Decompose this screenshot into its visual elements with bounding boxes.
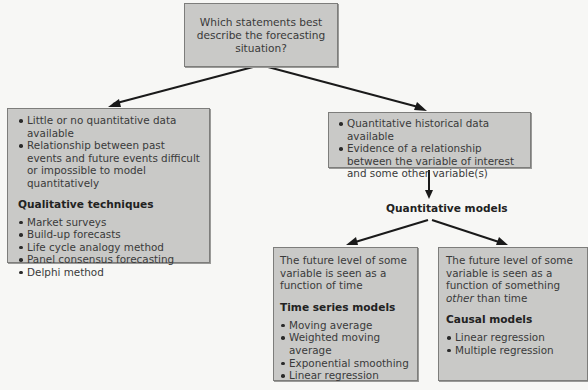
qualitative-technique: Market surveys (18, 216, 203, 229)
causal-model: Linear regression (446, 331, 583, 344)
causal-box: The future level of some variable is see… (438, 247, 588, 381)
qualitative-heading: Qualitative techniques (18, 198, 203, 210)
time-series-model: Linear regression (280, 369, 411, 382)
arrow-to-qualitative (113, 67, 253, 104)
time-series-heading: Time series models (280, 301, 411, 313)
time-series-model: Moving average (280, 319, 411, 332)
causal-models-list: Linear regression Multiple regression (446, 331, 583, 356)
qualitative-conditions-list: Little or no quantitative data available… (18, 114, 203, 190)
arrowhead-quantitative-models (425, 190, 433, 199)
qualitative-techniques-list: Market surveys Build-up forecasts Life c… (18, 216, 203, 279)
quantitative-condition: Quantitative historical data available (338, 117, 524, 142)
causal-description: The future level of some variable is see… (446, 254, 583, 304)
qualitative-technique: Delphi method (18, 266, 203, 279)
arrowhead-quantitative (414, 102, 427, 111)
quantitative-conditions-list: Quantitative historical data available E… (338, 117, 524, 180)
causal-description-start: The future level of some variable is see… (446, 254, 573, 291)
arrowhead-causal (496, 237, 508, 245)
qualitative-technique: Build-up forecasts (18, 228, 203, 241)
time-series-model: Weighted moving average (280, 331, 411, 356)
time-series-box: The future level of some variable is see… (273, 247, 418, 381)
time-series-description: The future level of some variable is see… (280, 254, 411, 292)
qualitative-box: Little or no quantitative data available… (7, 108, 210, 263)
causal-description-end: than time (474, 292, 528, 304)
quantitative-condition: Evidence of a relationship between the v… (338, 142, 524, 180)
arrow-to-causal (432, 220, 502, 243)
root-question-text: Which statements best describe the forec… (185, 16, 337, 55)
quantitative-models-label: Quantitative models (386, 202, 508, 214)
root-question-line-1: Which statements best (185, 16, 337, 29)
quantitative-conditions-box: Quantitative historical data available E… (328, 112, 531, 168)
qualitative-condition: Relationship between past events and fut… (18, 139, 203, 189)
time-series-model: Exponential smoothing (280, 357, 411, 370)
causal-description-emphasis: other (446, 292, 474, 304)
causal-model: Multiple regression (446, 344, 583, 357)
qualitative-condition: Little or no quantitative data available (18, 114, 203, 139)
arrowhead-qualitative (108, 99, 121, 107)
qualitative-technique: Life cycle analogy method (18, 241, 203, 254)
arrow-to-time-series (352, 220, 428, 243)
root-question-box: Which statements best describe the forec… (184, 3, 338, 67)
arrow-to-quantitative (268, 67, 422, 108)
root-question-line-2: describe the forecasting situation? (185, 29, 337, 55)
qualitative-technique: Panel consensus forecasting (18, 253, 203, 266)
time-series-models-list: Moving average Weighted moving average E… (280, 319, 411, 382)
causal-heading: Causal models (446, 313, 583, 325)
arrowhead-time-series (346, 237, 358, 245)
